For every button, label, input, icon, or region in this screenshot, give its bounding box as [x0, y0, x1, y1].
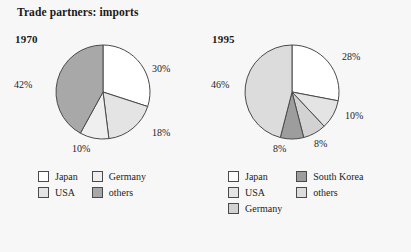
slice-label-japan-1970: 30% [152, 63, 170, 74]
legend-item-south-korea-1995[interactable]: South Korea [296, 170, 363, 183]
pie-svg-1970 [55, 44, 151, 140]
pie-chart-1995 [244, 44, 340, 140]
pie-panel-1970: 1970 30% 18% 10% 42% Japan USA Germany [0, 0, 200, 252]
legend-label-japan: Japan [245, 170, 268, 183]
legend-1970: Japan USA Germany others [38, 170, 146, 199]
legend-swatch-japan-icon [38, 171, 49, 182]
legend-item-others-1995[interactable]: others [296, 186, 363, 199]
legend-label-germany: Germany [245, 202, 282, 215]
pie-chart-1970 [55, 44, 151, 140]
year-label-1970: 1970 [15, 33, 38, 45]
legend-item-usa-1995[interactable]: USA [228, 186, 282, 199]
legend-swatch-usa-icon [38, 187, 49, 198]
pie-slice-japan [292, 45, 339, 101]
slice-label-germany-1970: 10% [72, 143, 90, 154]
legend-swatch-germany-icon [92, 171, 103, 182]
slice-label-south-korea-1995: 8% [273, 143, 286, 154]
year-label-1995: 1995 [212, 33, 235, 45]
legend-label-others: others [109, 186, 133, 199]
legend-1995: Japan USA Germany South Korea others [228, 170, 364, 215]
legend-swatch-others-icon [92, 187, 103, 198]
legend-label-germany: Germany [109, 170, 146, 183]
slice-label-usa-1970: 18% [152, 127, 170, 138]
legend-label-usa: USA [245, 186, 265, 199]
legend-label-south-korea: South Korea [313, 170, 363, 183]
legend-label-japan: Japan [55, 170, 78, 183]
legend-swatch-usa-icon [228, 187, 239, 198]
slice-label-japan-1995: 28% [342, 51, 360, 62]
legend-item-germany-1995[interactable]: Germany [228, 202, 282, 215]
legend-label-usa: USA [55, 186, 75, 199]
legend-item-others-1970[interactable]: others [92, 186, 146, 199]
slice-label-others-1995: 46% [211, 79, 229, 90]
legend-swatch-south-korea-icon [296, 171, 307, 182]
slice-label-germany-1995: 8% [314, 138, 327, 149]
legend-item-japan-1995[interactable]: Japan [228, 170, 282, 183]
legend-swatch-others-icon [296, 187, 307, 198]
legend-swatch-germany-icon [228, 203, 239, 214]
legend-swatch-japan-icon [228, 171, 239, 182]
slice-label-usa-1995: 10% [345, 110, 363, 121]
legend-item-japan-1970[interactable]: Japan [38, 170, 78, 183]
legend-item-usa-1970[interactable]: USA [38, 186, 78, 199]
legend-label-others: others [313, 186, 337, 199]
slice-label-others-1970: 42% [14, 79, 32, 90]
chart-figure: Trade partners: imports 1970 30% 18% 10%… [0, 0, 411, 252]
pie-panel-1995: 1995 28% 10% 8% 8% 46% Japan USA Germany [196, 0, 411, 252]
pie-svg-1995 [244, 44, 340, 140]
legend-item-germany-1970[interactable]: Germany [92, 170, 146, 183]
